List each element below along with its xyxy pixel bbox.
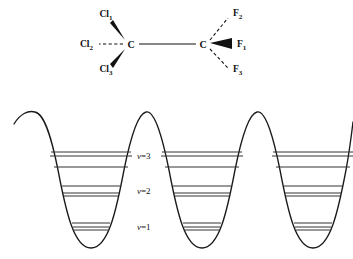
level-group-v3	[272, 152, 353, 167]
bond-wedge-cl3	[110, 49, 125, 68]
bond-dashed-f2	[210, 18, 228, 40]
level-group-v3	[161, 152, 243, 167]
bond-wedge-cl1	[110, 20, 125, 40]
level-group-v2	[62, 186, 120, 196]
label-cl2: Cl2	[80, 39, 94, 52]
potential-energy-curve	[14, 112, 353, 249]
label-f3: F3	[233, 64, 243, 77]
level-group-v1	[294, 223, 332, 230]
potential-energy-plot: v=3 v=2 v=1	[14, 112, 353, 249]
level-group-v1	[183, 223, 221, 230]
level-group-v2	[284, 186, 342, 196]
label-f1: F1	[237, 39, 247, 52]
label-cl1: Cl1	[100, 9, 114, 22]
energy-level-label-v2: v=2	[137, 186, 151, 196]
bond-wedge-f1	[210, 38, 232, 49]
label-cl3: Cl3	[100, 64, 114, 77]
atom-right-carbon: C	[199, 39, 206, 50]
bond-dashed-f3	[210, 49, 228, 68]
molecule-diagram: C C Cl1 Cl2 Cl3 F2 F1 F3	[80, 8, 247, 77]
energy-level-label-v3: v=3	[137, 151, 151, 161]
level-group-v2	[173, 186, 231, 196]
level-group-v1	[72, 223, 110, 230]
figure-root: C C Cl1 Cl2 Cl3 F2 F1 F3	[0, 0, 353, 259]
level-group-v3	[50, 152, 132, 167]
label-f2: F2	[233, 8, 243, 21]
energy-level-label-v1: v=1	[137, 222, 151, 232]
atom-left-carbon: C	[127, 39, 134, 50]
